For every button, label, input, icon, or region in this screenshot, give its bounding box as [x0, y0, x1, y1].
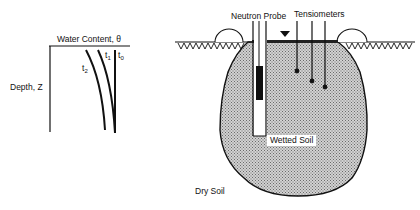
curve-label-t1: t1 [105, 51, 111, 61]
x-axis-label: Water Content, θ [57, 35, 121, 44]
diagram-canvas [0, 0, 420, 210]
dry-soil-label: Dry Soil [195, 187, 225, 196]
wetted-soil-bulb [220, 42, 367, 196]
neutron-probe-label: Neutron Probe [231, 12, 286, 21]
berm-right [337, 29, 367, 42]
curve-label-t2: t2 [82, 64, 88, 74]
y-axis-label: Depth, Z [10, 83, 43, 92]
soil-cross-section [175, 21, 415, 196]
ground-hatch-right [346, 43, 412, 49]
berm-left [215, 29, 243, 42]
tensiometers-label: Tensiometers [294, 10, 345, 19]
ground-hatch-left [178, 43, 244, 49]
curve-label-t0: t0 [118, 51, 124, 61]
water-level-marker-icon [280, 31, 290, 37]
neutron-probe-body [256, 66, 263, 100]
wetted-soil-label: Wetted Soil [267, 135, 316, 146]
